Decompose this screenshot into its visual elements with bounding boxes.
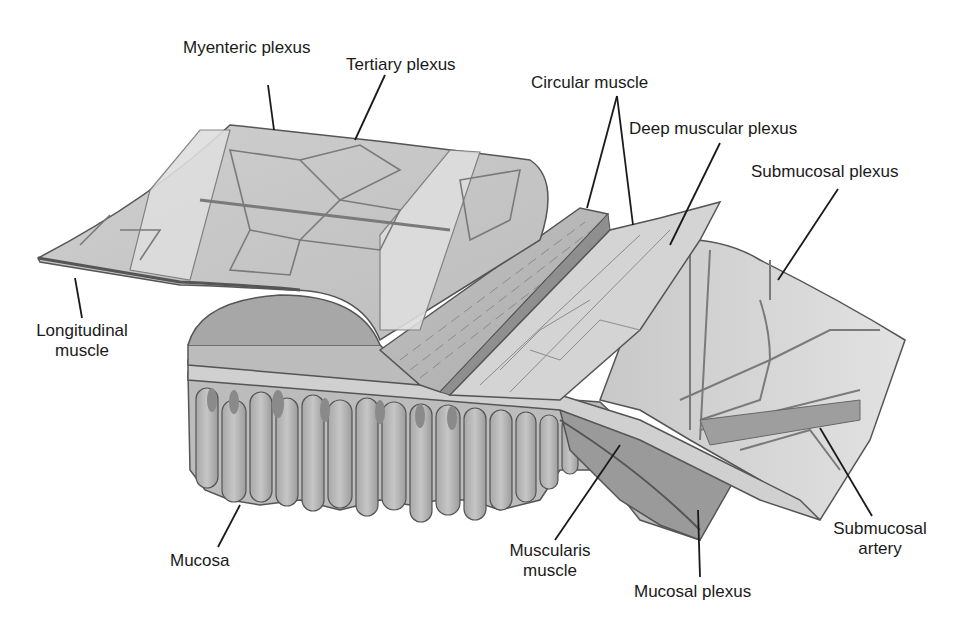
label-muscularis-line1: Muscularis — [490, 541, 610, 561]
label-submucosal-artery: Submucosal artery — [818, 519, 942, 559]
label-submucosal-artery-line1: Submucosal — [818, 519, 942, 539]
label-muscularis-muscle: Muscularis muscle — [490, 541, 610, 581]
label-submucosal-artery-line2: artery — [818, 539, 942, 559]
label-tertiary-plexus: Tertiary plexus — [346, 55, 456, 75]
label-deep-muscular-plexus: Deep muscular plexus — [629, 119, 797, 139]
label-mucosa: Mucosa — [170, 551, 230, 571]
enteric-plexus-diagram: Myenteric plexus Tertiary plexus Circula… — [0, 0, 964, 624]
label-myenteric-plexus: Myenteric plexus — [183, 38, 311, 58]
label-circular-muscle: Circular muscle — [531, 73, 648, 93]
label-longitudinal-muscle: Longitudinal muscle — [22, 321, 142, 361]
label-submucosal-plexus: Submucosal plexus — [751, 162, 898, 182]
label-longitudinal-line2: muscle — [22, 341, 142, 361]
label-longitudinal-line1: Longitudinal — [22, 321, 142, 341]
label-mucosal-plexus: Mucosal plexus — [634, 582, 751, 602]
label-muscularis-line2: muscle — [490, 561, 610, 581]
